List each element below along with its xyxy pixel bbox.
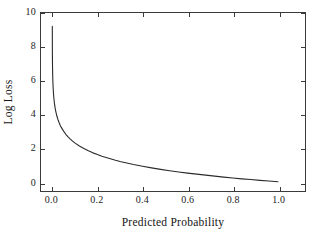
- y-tick-mark: [41, 47, 45, 48]
- y-tick-label: 0: [16, 178, 36, 188]
- log-loss-curve-svg: [41, 13, 305, 191]
- y-tick-label: 10: [16, 7, 36, 17]
- y-tick-mark: [41, 81, 45, 82]
- x-tick-mark-top: [280, 13, 281, 17]
- y-tick-mark-right: [301, 47, 305, 48]
- x-tick-label: 0.6: [168, 194, 208, 205]
- x-tick-mark-top: [234, 13, 235, 17]
- x-tick-mark: [234, 187, 235, 191]
- log-loss-curve: [52, 26, 278, 181]
- x-tick-mark-top: [189, 13, 190, 17]
- y-tick-mark: [41, 13, 45, 14]
- y-tick-mark: [41, 115, 45, 116]
- x-tick-mark: [189, 187, 190, 191]
- x-tick-label: 0.0: [31, 194, 71, 205]
- x-tick-mark: [98, 187, 99, 191]
- y-tick-mark-right: [301, 115, 305, 116]
- y-tick-mark: [41, 149, 45, 150]
- x-tick-mark-top: [52, 13, 53, 17]
- y-axis-label: Log Loss: [2, 79, 14, 124]
- x-tick-label: 1.0: [259, 194, 299, 205]
- y-tick-mark-right: [301, 149, 305, 150]
- y-tick-label: 8: [16, 41, 36, 51]
- x-tick-mark-top: [98, 13, 99, 17]
- y-tick-mark: [41, 184, 45, 185]
- x-tick-mark: [280, 187, 281, 191]
- y-tick-mark-right: [301, 184, 305, 185]
- x-tick-mark: [52, 187, 53, 191]
- y-tick-label: 2: [16, 143, 36, 153]
- y-tick-mark-right: [301, 13, 305, 14]
- y-axis-label-container: Log Loss: [0, 12, 16, 192]
- chart-figure: Log Loss 0246810 0.00.20.40.60.81.0 Pred…: [0, 0, 322, 241]
- x-tick-label: 0.4: [122, 194, 162, 205]
- y-tick-label: 4: [16, 109, 36, 119]
- x-axis-label: Predicted Probability: [40, 216, 306, 228]
- y-tick-label: 6: [16, 75, 36, 85]
- x-tick-mark: [143, 187, 144, 191]
- plot-axes: [40, 12, 306, 192]
- x-tick-mark-top: [143, 13, 144, 17]
- x-tick-label: 0.8: [213, 194, 253, 205]
- x-tick-label: 0.2: [77, 194, 117, 205]
- y-tick-mark-right: [301, 81, 305, 82]
